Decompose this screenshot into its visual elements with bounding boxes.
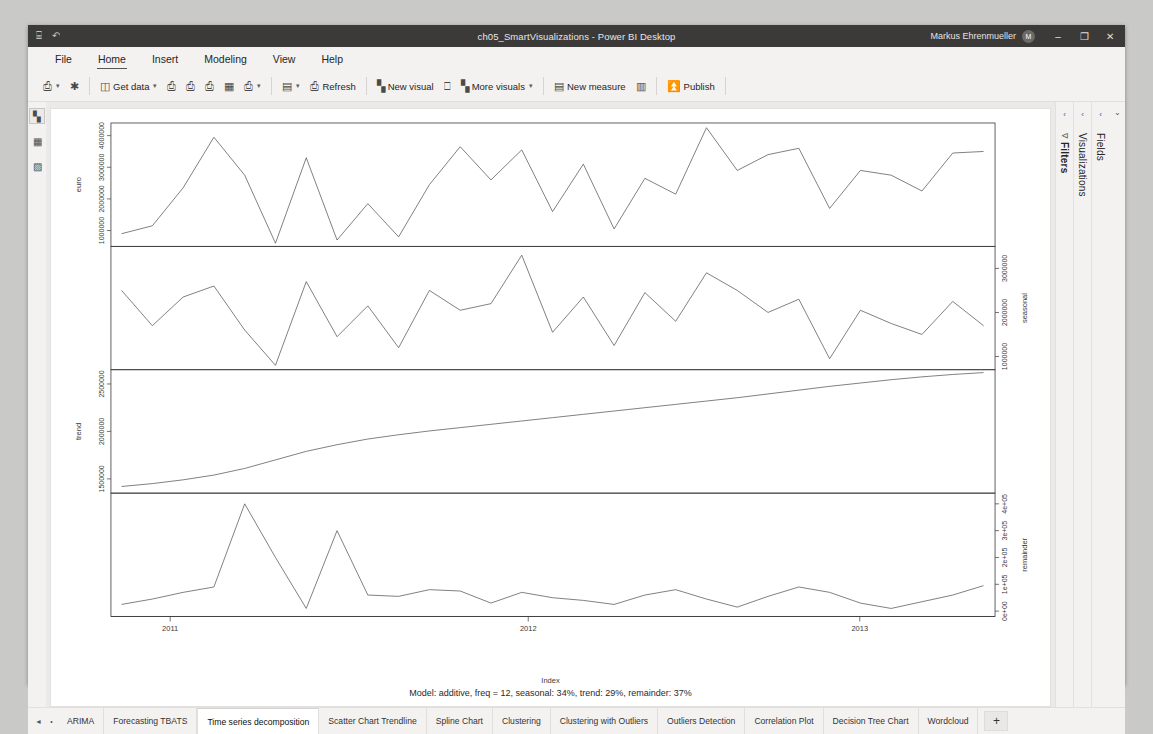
transform-data-button[interactable]: ▤ ▾ — [277, 73, 305, 99]
avatar[interactable]: M — [1022, 30, 1035, 43]
page-tab-clustering-with-outliers[interactable]: Clustering with Outliers — [551, 708, 658, 734]
expand-panes-button[interactable]: ⌄ — [1109, 102, 1125, 707]
dataverse-icon: ⎙ — [186, 81, 195, 92]
format-painter-button[interactable]: ✱ — [65, 73, 84, 99]
menu-item-modeling[interactable]: Modeling — [191, 47, 260, 71]
paste-button[interactable]: ⎙ ▾ — [38, 73, 65, 99]
title-bar: ⌸ ↶ ch05_SmartVisualizations - Power BI … — [28, 25, 1125, 47]
page-tab-scatter-chart-trendline[interactable]: Scatter Chart Trendline — [319, 708, 426, 734]
page-tab-time-series-decomposition[interactable]: Time series decomposition — [197, 708, 319, 734]
previous-page-button[interactable]: ◄ — [32, 708, 45, 734]
svg-text:2000000: 2000000 — [98, 418, 105, 445]
new-measure-button[interactable]: ▤ New measure — [549, 73, 631, 99]
text-box-button[interactable]: ⎕ — [439, 73, 456, 99]
chevron-left-icon[interactable]: ‹ — [1081, 110, 1084, 119]
page-tab-clustering[interactable]: Clustering — [493, 708, 551, 734]
dataverse-button[interactable]: ⎙ — [181, 73, 200, 99]
svg-text:2011: 2011 — [162, 624, 178, 633]
svg-text:3000000: 3000000 — [1001, 255, 1008, 282]
svg-text:2e+05: 2e+05 — [1001, 548, 1008, 568]
chevron-left-icon[interactable]: ‹ — [1099, 110, 1102, 119]
recent-sources-button[interactable]: ⎙ ▾ — [239, 73, 266, 99]
menu-item-home[interactable]: Home — [85, 47, 139, 71]
chevron-down-icon: ▾ — [529, 82, 533, 90]
ribbon-group-clipboard: ⎙ ▾ ✱ — [38, 73, 84, 99]
svg-text:seasonal: seasonal — [1020, 293, 1029, 323]
report-view-icon[interactable]: ▚ — [29, 108, 45, 124]
ribbon-group-share: ⏫ Publish — [662, 73, 720, 99]
report-canvas-area: 1000000200000030000004000000euro10000002… — [46, 102, 1055, 707]
menu-item-view[interactable]: View — [260, 47, 309, 71]
publish-button[interactable]: ⏫ Publish — [662, 73, 720, 99]
add-page-button[interactable]: + — [984, 711, 1008, 731]
quick-measure-icon: ▥ — [636, 81, 646, 92]
ribbon-group-insert: ▚ New visual ⎕ ▚ More visuals ▾ — [372, 73, 538, 99]
minimize-button[interactable]: – — [1045, 25, 1071, 47]
new-visual-label: New visual — [388, 81, 434, 92]
more-visuals-button[interactable]: ▚ More visuals ▾ — [456, 73, 538, 99]
account-name[interactable]: Markus Ehrenmueller — [930, 31, 1016, 41]
quick-access-toolbar: ⌸ ↶ — [28, 31, 60, 41]
quick-measure-button[interactable]: ▥ — [631, 73, 651, 99]
page-tab-forecasting-tbats[interactable]: Forecasting TBATS — [104, 708, 197, 734]
new-measure-label: New measure — [567, 81, 626, 92]
refresh-button[interactable]: ⎙ Refresh — [305, 73, 360, 99]
fields-pane-label: Fields — [1095, 133, 1106, 161]
ribbon-group-calculations: ▤ New measure ▥ — [549, 73, 651, 99]
chevron-down-icon: ▾ — [257, 82, 261, 90]
transform-data-icon: ▤ — [282, 81, 292, 92]
page-tab-outliers-detection[interactable]: Outliers Detection — [658, 708, 745, 734]
title-bar-right: Markus Ehrenmueller M – ❐ ✕ — [930, 25, 1125, 47]
page-overflow-button[interactable]: • — [45, 708, 58, 734]
svg-text:4e+05: 4e+05 — [1001, 494, 1008, 514]
recent-sources-icon: ⎙ — [244, 81, 253, 92]
data-view-icon[interactable]: ▦ — [29, 133, 45, 149]
get-data-label: Get data — [113, 81, 149, 92]
undo-icon[interactable]: ↶ — [52, 31, 60, 41]
menu-item-file[interactable]: File — [42, 47, 85, 71]
close-button[interactable]: ✕ — [1097, 25, 1123, 47]
report-page-canvas[interactable]: 1000000200000030000004000000euro10000002… — [50, 108, 1051, 707]
chevron-left-icon[interactable]: ‹ — [1063, 110, 1066, 119]
paste-icon: ⎙ — [43, 81, 52, 92]
more-visuals-icon: ▚ — [461, 81, 469, 92]
save-icon[interactable]: ⌸ — [36, 31, 42, 41]
restore-button[interactable]: ❐ — [1071, 25, 1097, 47]
chevron-down-icon: ▾ — [153, 82, 157, 90]
excel-workbook-button[interactable]: ⎙ — [162, 73, 181, 99]
new-measure-icon: ▤ — [554, 81, 564, 92]
svg-text:1e+05: 1e+05 — [1001, 574, 1008, 594]
enter-data-button[interactable]: ▦ — [219, 73, 239, 99]
page-tab-wordcloud[interactable]: Wordcloud — [919, 708, 979, 734]
publish-label: Publish — [684, 81, 715, 92]
page-tab-correlation-plot[interactable]: Correlation Plot — [745, 708, 823, 734]
visualizations-pane[interactable]: ‹ Visualizations — [1073, 102, 1091, 707]
svg-text:1000000: 1000000 — [1001, 343, 1008, 370]
ribbon-toolbar: ⎙ ▾ ✱ ◫ Get data ▾ ⎙ ⎙ ⎙ ▦ — [28, 71, 1125, 102]
sql-server-icon: ⎙ — [205, 81, 214, 92]
filters-pane[interactable]: ‹ ∇ Filters — [1055, 102, 1073, 707]
ribbon-separator — [271, 77, 272, 95]
page-tab-decision-tree-chart[interactable]: Decision Tree Chart — [824, 708, 919, 734]
menu-item-help[interactable]: Help — [308, 47, 356, 71]
time-series-decomposition-visual[interactable]: 1000000200000030000004000000euro10000002… — [51, 109, 1050, 668]
svg-text:remainder: remainder — [1020, 537, 1029, 571]
menu-item-insert[interactable]: Insert — [139, 47, 191, 71]
chevron-down-icon: ▾ — [296, 82, 300, 90]
svg-text:2012: 2012 — [520, 624, 537, 633]
svg-text:3000000: 3000000 — [98, 154, 105, 181]
svg-text:trend: trend — [74, 423, 83, 440]
enter-data-icon: ▦ — [224, 81, 234, 92]
new-visual-button[interactable]: ▚ New visual — [372, 73, 439, 99]
page-tab-arima[interactable]: ARIMA — [58, 708, 104, 734]
get-data-icon: ◫ — [100, 81, 110, 92]
model-view-icon[interactable]: ▨ — [29, 158, 45, 174]
refresh-icon: ⎙ — [310, 81, 319, 92]
get-data-button[interactable]: ◫ Get data ▾ — [95, 73, 162, 99]
fields-pane[interactable]: ‹ Fields — [1091, 102, 1109, 707]
sql-server-button[interactable]: ⎙ — [200, 73, 219, 99]
more-visuals-label: More visuals — [472, 81, 525, 92]
svg-text:2000000: 2000000 — [98, 185, 105, 212]
page-tab-spline-chart[interactable]: Spline Chart — [427, 708, 493, 734]
power-bi-desktop-window: ⌸ ↶ ch05_SmartVisualizations - Power BI … — [28, 25, 1125, 685]
